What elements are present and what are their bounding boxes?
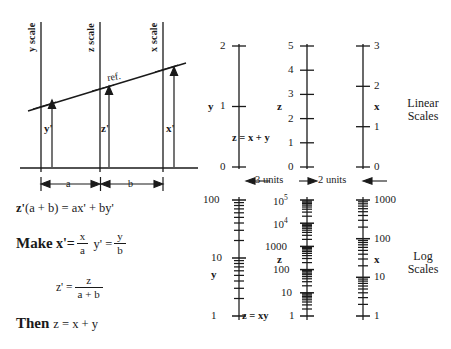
equation-zprime-lead: z' <box>16 201 25 215</box>
linear-scales-group-label-line2: Scales <box>395 110 451 123</box>
then-equation: z = x + y <box>53 317 98 331</box>
fraction-z-over-apb: za + b <box>75 275 103 300</box>
linear-z-tick-0: 0 <box>288 161 294 172</box>
make-lhs-x: x'= <box>56 236 75 251</box>
fraction-z-over-apb-denominator: a + b <box>75 287 103 301</box>
log-z-axis-name: z <box>277 253 282 265</box>
z-scale-axis-label: z scale <box>85 23 96 52</box>
linear-z-axis <box>300 44 314 169</box>
make-lhs-y: y' = <box>94 237 113 251</box>
linear-y-axis-name: y <box>208 100 214 112</box>
linear-y-axis <box>232 44 246 169</box>
linear-z-tick-3: 3 <box>288 88 294 99</box>
equation-zprime-definition: z' =za + b <box>56 276 105 301</box>
fraction-z-over-apb-numerator: z <box>75 275 103 287</box>
x-scale-axis-label: x scale <box>148 23 159 52</box>
linear-z-tick-5: 5 <box>288 40 294 51</box>
y-prime-label: y' <box>44 122 53 134</box>
log-z-tick-100: 100 <box>273 264 290 275</box>
log-scales-group-label: Log Scales <box>395 250 451 277</box>
linear-z-tick-2: 2 <box>288 113 294 124</box>
linear-z-axis-name: z <box>277 100 282 112</box>
zprime-lhs: z' = <box>56 281 73 293</box>
log-relation-label: z = xy <box>242 310 268 321</box>
fraction-x-over-a-denominator: a <box>77 243 89 257</box>
log-scales-group-label-line1: Log <box>395 250 451 263</box>
linear-y-tick-1: 1 <box>220 100 226 111</box>
dim-a-right-head <box>91 181 100 188</box>
distance-b-label: b <box>128 178 133 189</box>
log-scales-group-label-line2: Scales <box>395 263 451 276</box>
log-x-tick-1000: 1000 <box>374 194 396 205</box>
log-x-tick-10: 10 <box>374 271 385 282</box>
linear-y-tick-0: 0 <box>220 161 226 172</box>
log-z-tick-1e4-mantissa: 10 <box>273 218 284 230</box>
derivation-equations: z'(a + b) = ax' + by' Make x'=xa y' =yb … <box>0 196 215 349</box>
log-z-tick-1e4: 104 <box>273 217 288 230</box>
nomogram-scales-panel: 0 1 2 0 1 2 3 4 5 0 1 2 3 y z x z = x + … <box>215 0 451 349</box>
fraction-x-over-a-numerator: x <box>77 231 89 243</box>
log-z-tick-1e5-exponent: 5 <box>284 193 288 202</box>
equation-make-substitutions: Make x'=xa y' =yb <box>16 232 128 257</box>
log-y-axis <box>232 197 246 320</box>
linear-x-tick-3: 3 <box>374 40 380 51</box>
log-x-tick-1: 1 <box>374 310 380 321</box>
linear-z-tick-1: 1 <box>288 137 294 148</box>
fraction-y-over-b-denominator: b <box>114 243 126 257</box>
linear-scales-group-label-line1: Linear <box>395 97 451 110</box>
log-z-tick-10: 10 <box>281 287 292 298</box>
fraction-y-over-b: yb <box>114 231 126 256</box>
then-keyword: Then <box>16 315 49 331</box>
log-y-tick-10: 10 <box>211 252 222 263</box>
log-z-tick-1e4-exponent: 4 <box>284 216 288 225</box>
log-y-tick-100: 100 <box>203 194 220 205</box>
dim-a-left-head <box>41 181 50 188</box>
equation-then-result: Then z = x + y <box>16 314 98 332</box>
log-y-axis-name: y <box>211 268 217 280</box>
linear-x-axis <box>356 44 370 169</box>
log-z-tick-1e5-mantissa: 10 <box>273 195 284 207</box>
log-z-tick-1: 1 <box>289 310 295 321</box>
linear-y-tick-2: 2 <box>220 40 226 51</box>
linear-relation-label: z = x + y <box>232 132 270 143</box>
linear-z-tick-4: 4 <box>288 64 294 75</box>
spacing-left-label: 3 units <box>255 174 283 185</box>
log-z-tick-1000: 1000 <box>265 241 287 252</box>
fraction-y-over-b-numerator: y <box>114 231 126 243</box>
reference-line-label: ref. <box>106 70 121 83</box>
log-z-tick-1e5: 105 <box>273 194 288 207</box>
log-x-axis-name: x <box>374 253 380 265</box>
linear-x-axis-name: x <box>374 100 380 112</box>
make-keyword: Make <box>16 235 53 251</box>
log-x-tick-100: 100 <box>374 233 391 244</box>
nomogram-construction-diagram: y scale z scale x scale ref. y' z' x' a … <box>0 0 215 200</box>
log-z-axis <box>300 197 314 320</box>
linear-x-tick-2: 2 <box>374 80 380 91</box>
linear-x-tick-0: 0 <box>374 161 380 172</box>
log-x-axis <box>356 197 370 320</box>
dim-b-right-head <box>154 181 163 188</box>
fraction-x-over-a: xa <box>77 231 89 256</box>
x-prime-arrowhead <box>170 67 177 76</box>
distance-a-label: a <box>66 178 70 189</box>
log-y-tick-1: 1 <box>211 310 217 321</box>
z-prime-label: z' <box>101 122 109 134</box>
y-scale-axis-label: y scale <box>26 23 37 52</box>
linear-x-tick-1: 1 <box>374 121 380 132</box>
spacing-right-label: 2 units <box>318 174 346 185</box>
linear-scales-group-label: Linear Scales <box>395 97 451 124</box>
dim-b-left-head <box>101 181 110 188</box>
equation-zprime-weighted: z'(a + b) = ax' + by' <box>16 201 114 216</box>
equation-zprime-rest: (a + b) = ax' + by' <box>25 201 114 215</box>
x-prime-label: x' <box>166 122 175 134</box>
